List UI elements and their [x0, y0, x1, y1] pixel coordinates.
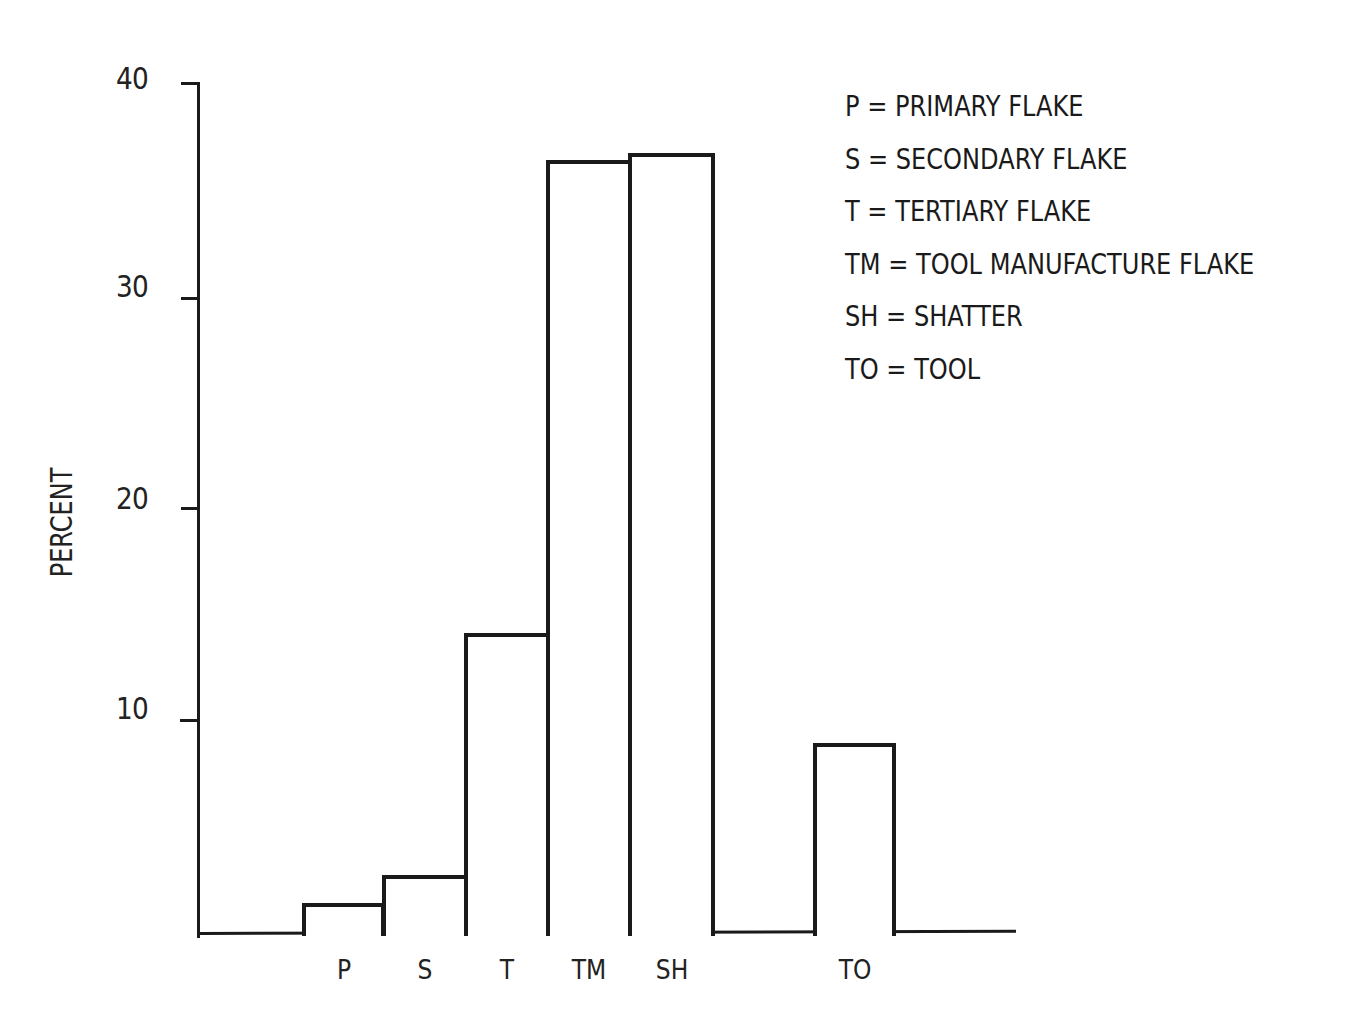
x-label-s: S	[389, 955, 461, 985]
y-tick-10	[180, 719, 198, 722]
y-axis-line	[197, 82, 200, 938]
bar-to	[813, 743, 896, 936]
legend-entry-secondary: S = SECONDARY FLAKE	[845, 143, 1254, 196]
y-tick-40	[181, 82, 199, 85]
bar-sh	[628, 153, 715, 936]
x-label-p: P	[308, 955, 380, 985]
chart-area: PERCENT 40 30 20 10 PSTTMSHTO P = PRIMAR…	[0, 0, 1345, 1023]
y-tick-label-30: 30	[116, 268, 148, 304]
y-tick-label-40: 40	[116, 60, 148, 96]
y-tick-label-10: 10	[116, 690, 148, 726]
legend-entry-primary: P = PRIMARY FLAKE	[845, 90, 1254, 143]
bar-s	[382, 875, 468, 936]
bar-p	[302, 903, 385, 936]
x-label-tm: TM	[553, 955, 625, 985]
y-tick-20	[181, 507, 199, 510]
y-tick-label-20: 20	[116, 480, 148, 516]
legend-entry-tool-manufacture: TM = TOOL MANUFACTURE FLAKE	[845, 248, 1254, 301]
x-label-to: TO	[819, 955, 891, 985]
bar-tm	[546, 160, 632, 936]
legend: P = PRIMARY FLAKE S = SECONDARY FLAKE T …	[845, 90, 1321, 405]
legend-entry-tool: TO = TOOL	[845, 353, 1254, 406]
x-label-sh: SH	[636, 955, 708, 985]
y-tick-30	[181, 297, 199, 300]
x-label-t: T	[471, 955, 543, 985]
legend-entry-tertiary: T = TERTIARY FLAKE	[845, 195, 1254, 248]
legend-entry-shatter: SH = SHATTER	[845, 300, 1254, 353]
y-axis-title: PERCENT	[44, 463, 79, 583]
bar-t	[464, 633, 550, 936]
